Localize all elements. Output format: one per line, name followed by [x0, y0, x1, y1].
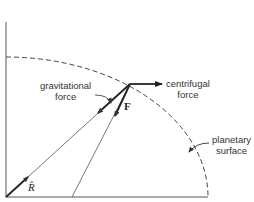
label-line: gravitational	[40, 80, 91, 91]
label-line: surface	[212, 145, 251, 156]
unit-vector-label: R̂	[28, 181, 35, 193]
planetary-surface-label: planetary surface	[212, 134, 251, 156]
gravitational-leader	[95, 95, 111, 103]
label-line: centrifugal	[166, 78, 210, 89]
label-line: force	[166, 89, 210, 100]
gravitational-force-label: gravitational force	[40, 80, 91, 102]
surface-leader	[189, 143, 209, 152]
centrifugal-force-label: centrifugal force	[166, 78, 210, 100]
label-line: force	[40, 91, 91, 102]
label-line: planetary	[212, 134, 251, 145]
unit-vector-r-arrow	[6, 177, 28, 197]
force-vector-label: F	[124, 100, 131, 112]
